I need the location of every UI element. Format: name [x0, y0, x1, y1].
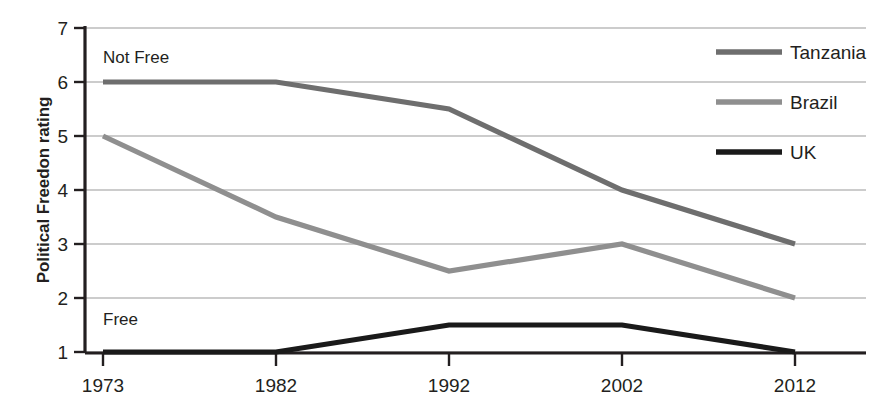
legend-label-brazil: Brazil [790, 92, 838, 113]
political-freedom-line-chart: Political Freedon rating 1234567 1973198… [0, 0, 870, 405]
data-series-group [103, 82, 795, 352]
legend-label-tanzania: Tanzania [790, 42, 866, 63]
y-tick-label: 1 [57, 342, 68, 363]
series-line-uk [103, 325, 795, 352]
y-tick-label: 4 [57, 180, 68, 201]
legend-label-uk: UK [790, 142, 817, 163]
x-axis-tick-labels: 19731982199220022012 [82, 375, 816, 396]
chart-plot-area: 1234567 19731982199220022012 Not Free Fr… [0, 0, 870, 405]
y-axis-ticks [74, 28, 85, 352]
x-tick-label: 1973 [82, 375, 124, 396]
y-tick-label: 5 [57, 126, 68, 147]
legend: TanzaniaBrazilUK [716, 42, 866, 163]
y-tick-label: 2 [57, 288, 68, 309]
y-axis-tick-labels: 1234567 [57, 18, 68, 363]
x-tick-label: 2012 [774, 375, 816, 396]
y-tick-label: 7 [57, 18, 68, 39]
series-line-tanzania [103, 82, 795, 244]
x-tick-label: 1982 [255, 375, 297, 396]
x-axis-ticks [103, 353, 795, 366]
y-tick-label: 6 [57, 72, 68, 93]
series-line-brazil [103, 136, 795, 298]
annotation-not-free: Not Free [103, 48, 169, 67]
x-tick-label: 1992 [428, 375, 470, 396]
x-tick-label: 2002 [601, 375, 643, 396]
gridlines [85, 28, 866, 352]
y-tick-label: 3 [57, 234, 68, 255]
annotation-free: Free [103, 310, 138, 329]
